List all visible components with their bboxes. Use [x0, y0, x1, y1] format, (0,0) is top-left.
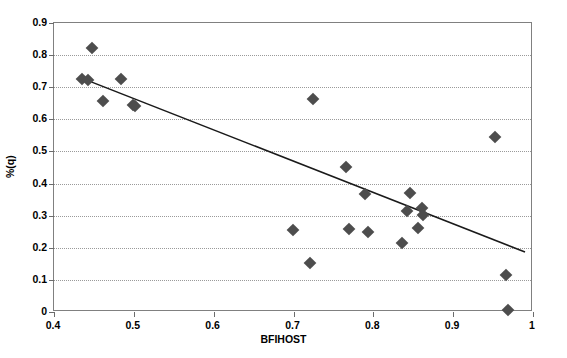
x-tick-label: 0.4: [23, 320, 83, 331]
scatter-chart: 00.10.20.30.40.50.60.70.80.9 0.40.50.60.…: [0, 0, 567, 358]
y-axis-title: %(q): [4, 155, 16, 178]
x-tick-label: 0.7: [263, 320, 323, 331]
x-tick-label: 0.9: [422, 320, 482, 331]
x-tick-label: 0.6: [183, 320, 243, 331]
x-tick-label: 0.5: [103, 320, 163, 331]
x-tick-label: 0.8: [342, 320, 402, 331]
x-axis-tick-labels: 0.40.50.60.70.80.91: [0, 0, 567, 358]
x-axis-title: BFIHOST: [0, 333, 567, 345]
x-tick-label: 1: [502, 320, 562, 331]
